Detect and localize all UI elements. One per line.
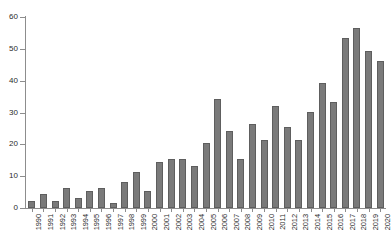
x-axis-tick [43, 209, 44, 212]
x-axis-tick-label: 2012 [291, 214, 299, 230]
x-axis-tick-label: 2006 [221, 214, 229, 230]
x-axis-tick [67, 209, 68, 212]
bar [40, 194, 47, 208]
x-axis-tick-label: 2005 [210, 214, 218, 230]
bar [168, 159, 175, 208]
bar [133, 172, 140, 208]
x-axis-tick-label: 2014 [314, 214, 322, 230]
y-axis-tick [20, 113, 26, 114]
bar [98, 188, 105, 208]
x-axis-tick [287, 209, 288, 212]
y-axis-tick [20, 208, 26, 209]
y-axis-tick [20, 81, 26, 82]
x-axis-tick [125, 209, 126, 212]
x-axis-tick [345, 209, 346, 212]
bar [214, 99, 221, 208]
bar [226, 131, 233, 208]
x-axis-tick-label: 2015 [326, 214, 334, 230]
x-axis-tick-label: 1992 [59, 214, 67, 230]
x-axis-tick-label: 2016 [337, 214, 345, 230]
x-axis-tick [148, 209, 149, 212]
x-axis-tick [252, 209, 253, 212]
y-axis-tick-label: 40 [0, 77, 18, 85]
bar [249, 124, 256, 208]
bar [295, 140, 302, 208]
x-axis-tick [241, 209, 242, 212]
x-axis-tick [276, 209, 277, 212]
x-axis-tick-label: 2017 [349, 214, 357, 230]
x-axis-tick-label: 2008 [244, 214, 252, 230]
x-axis-tick-label: 2019 [372, 214, 380, 230]
x-axis-tick [311, 209, 312, 212]
bar [330, 102, 337, 208]
y-axis-tick-label: 60 [0, 13, 18, 21]
bar [237, 159, 244, 208]
x-axis-tick [334, 209, 335, 212]
x-axis-tick-label: 2007 [233, 214, 241, 230]
x-axis-tick-label: 1994 [82, 214, 90, 230]
y-axis-tick-label: 10 [0, 172, 18, 180]
x-axis-tick-label: 1991 [47, 214, 55, 230]
x-axis-tick [32, 209, 33, 212]
x-axis-tick [183, 209, 184, 212]
x-axis-tick [218, 209, 219, 212]
x-axis-tick-label: 1998 [128, 214, 136, 230]
bar [377, 61, 384, 208]
x-axis-tick-label: 2013 [302, 214, 310, 230]
x-axis-tick-label: 2004 [198, 214, 206, 230]
x-axis-tick [78, 209, 79, 212]
x-axis-tick-label: 2010 [268, 214, 276, 230]
bar [156, 162, 163, 208]
x-axis-tick [369, 209, 370, 212]
bar [284, 127, 291, 208]
bar [28, 201, 35, 208]
y-axis-tick [20, 176, 26, 177]
bar [144, 191, 151, 208]
bar [121, 182, 128, 208]
x-axis-tick [194, 209, 195, 212]
y-axis-tick [20, 144, 26, 145]
bar [110, 203, 117, 208]
x-axis-tick-label: 1995 [93, 214, 101, 230]
bar [261, 140, 268, 208]
x-axis-tick [299, 209, 300, 212]
bar [307, 112, 314, 208]
bar [75, 198, 82, 209]
x-axis-tick-label: 1999 [140, 214, 148, 230]
bar [179, 159, 186, 208]
x-axis-tick-label: 2018 [360, 214, 368, 230]
x-axis-tick-label: 1990 [35, 214, 43, 230]
x-axis-tick [55, 209, 56, 212]
x-axis-tick-label: 2009 [256, 214, 264, 230]
x-axis-tick [322, 209, 323, 212]
x-axis-tick [136, 209, 137, 212]
bar [353, 28, 360, 208]
x-axis-tick-label: 1997 [117, 214, 125, 230]
x-axis-tick-label: 2011 [279, 214, 287, 230]
x-axis-tick [206, 209, 207, 212]
bar [365, 51, 372, 208]
bar [203, 143, 210, 208]
x-axis-tick-label: 2020 [384, 214, 392, 230]
x-axis-tick-label: 2001 [163, 214, 171, 230]
bar [52, 201, 59, 208]
bar [319, 83, 326, 208]
y-axis-tick-label: 50 [0, 45, 18, 53]
bar [191, 166, 198, 208]
x-axis-tick-label: 2003 [186, 214, 194, 230]
bar [86, 191, 93, 208]
x-axis-tick [380, 209, 381, 212]
y-axis-tick-label: 0 [0, 204, 18, 212]
x-axis-tick [357, 209, 358, 212]
x-axis-tick [113, 209, 114, 212]
bar [63, 188, 70, 208]
bar-chart-figure: 0102030405060 19901991199219931994199519… [0, 0, 392, 246]
x-axis-tick-label: 2002 [175, 214, 183, 230]
x-axis-tick-label: 1996 [105, 214, 113, 230]
x-axis-tick [264, 209, 265, 212]
x-axis-tick [90, 209, 91, 212]
y-axis-tick [20, 17, 26, 18]
x-axis-tick-label: 2000 [151, 214, 159, 230]
x-axis-tick [101, 209, 102, 212]
x-axis-tick [171, 209, 172, 212]
